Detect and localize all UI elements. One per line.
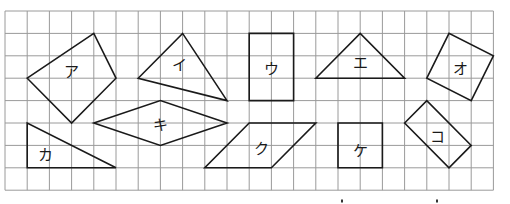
shape-label-i: イ (172, 56, 187, 74)
shape-label-a: ア (64, 63, 79, 81)
shape-label-o: オ (453, 60, 468, 78)
shape-label-ka: カ (38, 146, 53, 164)
shape-label-u: ウ (264, 60, 279, 78)
shape-label-ke: ケ (353, 142, 368, 160)
labels-layer: アイウエオカキクケコ (38, 54, 468, 164)
cropped-text-mark (436, 200, 438, 203)
shape-label-ko: コ (430, 128, 445, 146)
shape-label-ku: ク (254, 140, 269, 158)
shape-label-ki: キ (153, 116, 168, 134)
bottom-marks (341, 200, 438, 203)
shape-label-e: エ (353, 54, 368, 72)
cropped-text-mark (341, 200, 343, 203)
shape-grid-diagram: アイウエオカキクケコ (0, 0, 510, 204)
